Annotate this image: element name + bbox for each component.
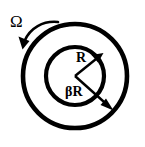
outer-radius-label: R xyxy=(76,50,87,65)
rotation-arrow-head xyxy=(19,37,30,50)
annulus-diagram-canvas: Ω R βR xyxy=(0,0,145,147)
angular-velocity-label: Ω xyxy=(10,12,23,31)
figure-container: Ω R βR xyxy=(0,0,145,147)
inner-radius-label: βR xyxy=(65,84,83,99)
